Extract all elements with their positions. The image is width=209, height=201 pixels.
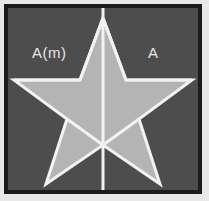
star-symmetry-figure: A(m) A: [0, 0, 209, 201]
star-diagram-canvas: [8, 8, 198, 190]
figure-frame: A(m) A: [4, 4, 202, 194]
original-region-label: A: [148, 44, 159, 61]
mirrored-region-label: A(m): [32, 44, 67, 61]
